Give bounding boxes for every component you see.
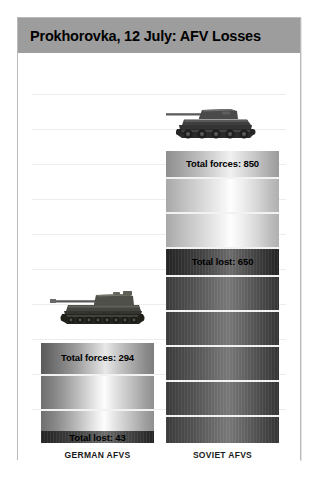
bar-segment [166, 382, 279, 415]
soviet-total-lost-label: Total lost: 650 [166, 256, 279, 267]
bar-segment [166, 312, 279, 345]
chart-title-bar: Prokhorovka, 12 July: AFV Losses [18, 18, 300, 53]
category-label-soviet: SOVIET AFVS [166, 450, 279, 460]
german-total-forces-label: Total forces: 294 [41, 352, 154, 363]
panzer-iv-tank-icon [48, 286, 152, 330]
bar-soviet-afvs: Total forces: 850 Total lost: 650 [166, 151, 279, 443]
bar-segment [166, 179, 279, 212]
bar-segment [41, 376, 154, 409]
bar-segment [166, 417, 279, 443]
bar-german-afvs: Total forces: 294 Total lost: 43 [41, 343, 154, 443]
plot-area: Total forces: 850 Total lost: 650 [18, 53, 300, 461]
bar-segment [166, 277, 279, 310]
chart-card: Prokhorovka, 12 July: AFV Losses [17, 17, 301, 460]
t34-tank-icon [162, 103, 260, 143]
bar-segment [41, 411, 154, 431]
soviet-total-forces-label: Total forces: 850 [166, 158, 279, 169]
gridline [32, 94, 286, 95]
category-label-german: GERMAN AFVS [41, 450, 154, 460]
page-title: Prokhorovka, 12 July: AFV Losses [30, 27, 261, 43]
bar-segment [166, 347, 279, 380]
bar-segment [166, 214, 279, 247]
german-total-lost-label: Total lost: 43 [41, 432, 154, 443]
